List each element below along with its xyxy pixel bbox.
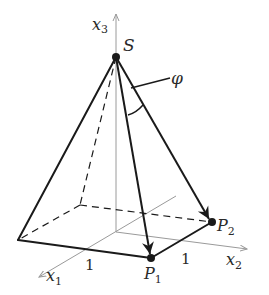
edge-apex-back-left — [80, 57, 116, 205]
edge-back-left-p2 — [80, 205, 212, 222]
point-s — [112, 53, 120, 61]
axes — [39, 14, 247, 277]
pyramid-diagram: x3 S φ P2 P1 x2 x1 1 1 — [0, 0, 269, 295]
point-p2 — [208, 218, 216, 226]
angle-pointer — [131, 78, 170, 88]
label-phi: φ — [171, 68, 183, 88]
tick-label-x1: 1 — [85, 256, 95, 274]
label-p2: P2 — [216, 216, 235, 238]
vectors — [116, 57, 209, 254]
tick-label-x2: 1 — [181, 250, 191, 268]
angle-arc — [128, 105, 143, 115]
label-x1: x1 — [46, 266, 62, 288]
label-s: S — [123, 35, 135, 55]
label-x3: x3 — [92, 15, 108, 36]
label-x2: x2 — [226, 250, 242, 272]
point-p1 — [147, 254, 155, 262]
label-p1: P1 — [143, 264, 162, 286]
